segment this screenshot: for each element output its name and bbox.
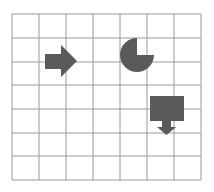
pacman-icon — [120, 38, 154, 72]
grid-diagram — [0, 0, 214, 192]
rectangle-down-arrow-icon — [150, 96, 184, 135]
right-arrow-icon — [45, 45, 77, 77]
